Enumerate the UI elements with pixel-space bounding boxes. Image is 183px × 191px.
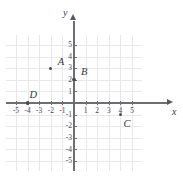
x-axis-line [6,102,168,103]
data-point-d [26,101,29,104]
y-tick-label: 1 [63,88,72,96]
y-axis-tick [73,161,77,162]
x-axis-tick [51,101,52,105]
x-tick-label: -4 [23,107,32,115]
x-tick-label: 1 [81,107,90,115]
y-axis-tick [73,126,77,127]
data-point-b [72,78,75,81]
x-axis-label: x [172,107,176,117]
x-axis-tick [62,101,63,105]
y-axis-tick [73,45,77,46]
arrow-right-icon [167,99,173,105]
y-axis-tick [73,138,77,139]
x-tick-label: -5 [12,107,21,115]
point-label-b: B [81,67,87,78]
x-tick-label: 5 [128,107,137,115]
y-axis-tick [73,115,77,116]
y-axis-tick [73,149,77,150]
x-tick-label: 2 [93,107,102,115]
x-axis-tick [132,101,133,105]
x-axis-tick [109,101,110,105]
x-axis-tick [97,101,98,105]
x-axis-tick [86,101,87,105]
y-tick-label: 2 [63,76,72,84]
data-point-c [119,113,122,116]
y-tick-label: 4 [63,53,72,61]
y-tick-label: -4 [63,146,72,154]
y-axis-tick [73,91,77,92]
x-tick-label: 3 [104,107,113,115]
x-axis-tick [120,101,121,105]
point-label-d: D [30,90,38,101]
x-tick-label: -3 [35,107,44,115]
y-axis-label: y [63,8,67,18]
coordinate-plane: -5-4-3-2-112345-5-4-3-2-112345 ABCD y x [0,0,183,191]
y-axis-tick [73,57,77,58]
point-label-a: A [58,57,64,68]
y-tick-label: -1 [63,111,72,119]
y-tick-label: -2 [63,122,72,130]
x-tick-label: -2 [46,107,55,115]
x-axis-tick [16,101,17,105]
y-tick-label: 3 [63,64,72,72]
point-label-c: C [123,119,130,130]
x-axis-tick [39,101,40,105]
y-tick-label: 5 [63,41,72,49]
y-tick-label: -3 [63,134,72,142]
arrow-up-icon [70,14,76,20]
data-point-a [49,67,52,70]
y-axis-tick [73,68,77,69]
y-tick-label: -5 [63,157,72,165]
